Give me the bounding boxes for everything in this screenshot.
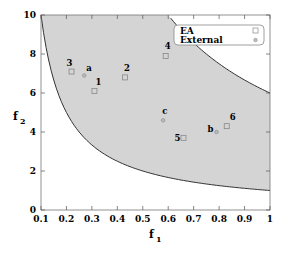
svg-text:1: 1 (156, 234, 162, 244)
svg-text:1: 1 (267, 214, 273, 224)
svg-text:0: 0 (30, 205, 36, 215)
svg-text:4: 4 (165, 41, 171, 51)
svg-text:2: 2 (20, 116, 26, 126)
svg-text:0.4: 0.4 (109, 214, 125, 224)
external-point (215, 130, 219, 134)
svg-text:10: 10 (23, 10, 36, 20)
svg-text:2: 2 (124, 63, 130, 73)
svg-text:4: 4 (30, 127, 36, 137)
legend-external-label: External (180, 35, 223, 45)
svg-text:0.2: 0.2 (59, 214, 75, 224)
circle-marker-icon (254, 38, 258, 42)
svg-text:6: 6 (230, 112, 236, 122)
svg-text:2: 2 (30, 166, 36, 176)
x-axis-label: f 1 (149, 228, 162, 244)
external-point (161, 119, 165, 123)
svg-text:8: 8 (30, 49, 36, 59)
svg-text:c: c (162, 106, 167, 116)
svg-text:0.5: 0.5 (135, 214, 151, 224)
svg-text:0.9: 0.9 (237, 214, 253, 224)
svg-text:1: 1 (95, 77, 101, 87)
external-point (82, 74, 86, 78)
svg-text:a: a (86, 63, 92, 73)
svg-text:0.1: 0.1 (33, 214, 49, 224)
svg-text:6: 6 (30, 88, 36, 98)
svg-text:0.7: 0.7 (186, 214, 202, 224)
legend: EA External (174, 25, 264, 45)
svg-text:b: b (208, 124, 214, 134)
svg-text:f: f (149, 228, 155, 241)
scatter-chart: 0.10.20.30.40.50.60.70.80.910246810 1234… (0, 0, 286, 260)
svg-text:0.3: 0.3 (84, 214, 100, 224)
svg-text:f: f (13, 110, 19, 123)
y-axis-label: f 2 (13, 110, 26, 126)
svg-text:5: 5 (174, 133, 180, 143)
svg-text:3: 3 (67, 58, 73, 68)
svg-text:0.6: 0.6 (160, 214, 176, 224)
svg-text:0.8: 0.8 (211, 214, 227, 224)
